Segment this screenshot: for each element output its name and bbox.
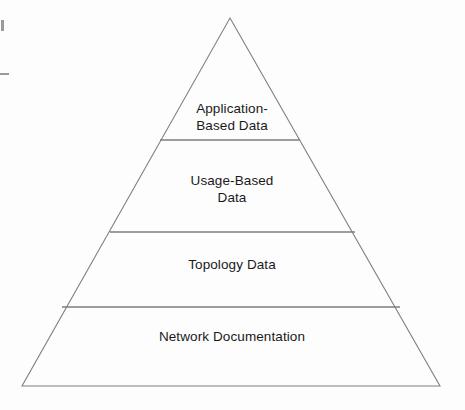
pyramid-outline xyxy=(22,18,440,386)
pyramid-figure: Application- Based Data Usage-Based Data… xyxy=(0,0,465,410)
pyramid-diagram-graphic xyxy=(0,0,465,410)
scan-artifact-vertical-tick xyxy=(1,20,4,31)
scan-artifact-horizontal-dash xyxy=(0,73,9,75)
